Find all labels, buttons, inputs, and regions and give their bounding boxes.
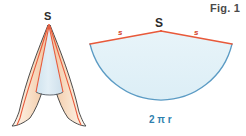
cone-diagram xyxy=(12,24,86,126)
sector-apex-point xyxy=(160,30,162,32)
figure-container: Fig. 1 S S s s 2 π r xyxy=(0,0,246,136)
sector-slant-label-left: s xyxy=(118,29,122,37)
sector-shape xyxy=(90,31,232,100)
sector-arc-length-label: 2 π r xyxy=(149,115,172,125)
cone-apex-point xyxy=(48,24,50,26)
cone-apex-label: S xyxy=(44,11,51,22)
sector-slant-label-right: s xyxy=(194,29,198,37)
geometry-figure-svg xyxy=(0,0,246,136)
figure-caption: Fig. 1 xyxy=(210,3,240,14)
sector-apex-label: S xyxy=(155,17,163,29)
sector-diagram xyxy=(90,30,232,100)
